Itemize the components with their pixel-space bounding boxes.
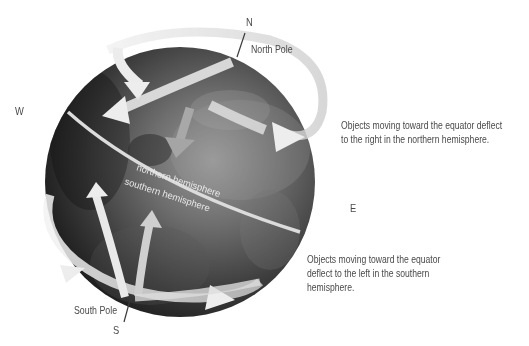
compass-west: W <box>15 105 24 117</box>
southern-deflection-note: Objects moving toward the equator deflec… <box>307 253 440 295</box>
note-line: Objects moving toward the equator deflec… <box>341 119 502 133</box>
note-line: to the right in the northern hemisphere. <box>341 133 502 147</box>
compass-east: E <box>350 202 356 214</box>
northern-deflection-note: Objects moving toward the equator deflec… <box>341 119 502 147</box>
note-line: hemisphere. <box>307 281 440 295</box>
north-pole-label: North Pole <box>251 43 293 56</box>
compass-south: S <box>113 324 119 336</box>
note-line: Objects moving toward the equator <box>307 253 440 267</box>
south-pole-label: South Pole <box>74 304 117 317</box>
compass-north: N <box>246 16 253 28</box>
note-line: deflect to the left in the southern <box>307 267 440 281</box>
